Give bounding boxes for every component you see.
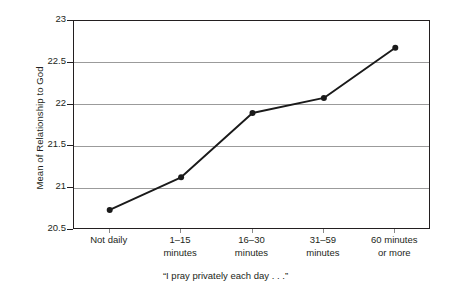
x-axis-tick-label-line1: Not daily [90,234,127,245]
x-axis-tick-label-line1: 1–15 [170,234,191,245]
y-axis-tick-label: 23 [26,13,66,24]
chart-figure: Mean of Relationship to God 2322.52221.5… [0,0,451,295]
x-axis-tick-label-line1: 60 minutes [371,234,417,245]
data-point-marker: 1–15 minutes: 21.13 [178,174,184,180]
y-axis-tick-mark [67,229,73,230]
x-axis-tick-label-line1: 31–59 [310,234,336,245]
data-point-marker: 31–59 minutes: 22.08 [321,95,327,101]
y-axis-tick-label: 20.5 [26,222,66,233]
x-axis-title: “I pray privately each day . . .” [0,270,451,281]
x-axis-tick-label: 60 minutesor more [344,234,444,259]
x-axis-tick-label-line2: or more [344,247,444,260]
x-axis-tick-label-line1: 16–30 [238,234,264,245]
data-point-marker: Not daily: 20.74 [107,207,113,213]
y-axis-tick-label: 21.5 [26,138,66,149]
line-series: Not daily: 20.741–15 minutes: 21.1316–30… [74,21,431,230]
y-axis-tick-label: 21 [26,180,66,191]
y-axis-tick-label: 22.5 [26,55,66,66]
data-point-marker: 60 minutes or more: 22.68 [392,45,398,51]
x-axis-tick-mark [323,229,324,233]
series-line [110,48,396,210]
plot-area: Not daily: 20.741–15 minutes: 21.1316–30… [73,20,430,229]
x-axis-tick-mark [252,229,253,233]
x-axis-tick-mark [109,229,110,233]
x-axis-tick-mark [180,229,181,233]
x-axis-tick-mark [394,229,395,233]
y-axis-title: Mean of Relationship to God [34,8,48,248]
data-point-marker: 16–30 minutes: 21.9 [250,110,256,116]
y-axis-tick-label: 22 [26,97,66,108]
